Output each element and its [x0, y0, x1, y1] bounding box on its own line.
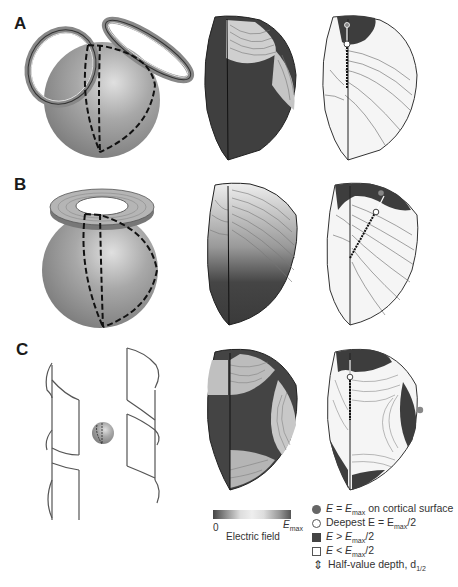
legend-item-half-value-depth: ⇕ Half-value depth, d1/2 — [312, 558, 453, 572]
legend-item-above-half: E > Emax/2 — [312, 530, 453, 544]
panel-b-field-map — [207, 183, 297, 325]
head-sphere-small — [92, 422, 114, 444]
panel-c-threshold-map — [327, 349, 423, 490]
panel-b-coil-model — [42, 189, 158, 328]
max-surface-marker — [417, 407, 423, 413]
circular-coil — [50, 189, 154, 230]
panel-a-threshold-map — [323, 15, 417, 160]
legend-text: E < Emax/2 — [326, 544, 374, 558]
electric-field-colorbar — [213, 510, 291, 519]
colorbar-max-symbol: E — [283, 519, 290, 530]
colorbar-max-label: Emax — [283, 519, 303, 532]
legend-text: Deepest E = Emax/2 — [326, 516, 416, 530]
open-circle-icon — [312, 519, 321, 528]
legend-item-below-half: E < Emax/2 — [312, 544, 453, 558]
h-coil-left — [46, 363, 79, 520]
panel-c-coil-model — [46, 348, 159, 520]
figure-canvas — [0, 0, 458, 587]
legend-text: E = Emax on cortical surface — [326, 502, 453, 516]
double-arrow-icon: ⇕ — [312, 560, 323, 571]
open-square-icon — [312, 547, 321, 556]
legend-item-deepest-half: Deepest E = Emax/2 — [312, 516, 453, 530]
filled-circle-icon — [312, 505, 321, 514]
filled-square-icon — [312, 533, 321, 542]
max-surface-marker — [345, 23, 350, 28]
deepest-half-marker — [344, 41, 350, 47]
panel-a-field-map — [205, 16, 296, 160]
max-surface-marker — [378, 190, 384, 196]
legend-item-max-surface: E = Emax on cortical surface — [312, 502, 453, 516]
h-coil-right — [127, 348, 159, 503]
colorbar-min-label: 0 — [213, 522, 219, 533]
deepest-half-marker — [347, 374, 353, 380]
legend-text: Half-value depth, d1/2 — [328, 558, 426, 572]
colorbar-max-sub: max — [290, 525, 303, 532]
panel-c-field-map — [207, 349, 297, 490]
legend-text: E > Emax/2 — [326, 530, 374, 544]
legend: E = Emax on cortical surface Deepest E =… — [312, 502, 453, 572]
colorbar-title: Electric field — [226, 531, 280, 542]
panel-a-coil-model — [16, 11, 198, 158]
panel-b-threshold-map — [327, 183, 418, 325]
deepest-half-marker — [373, 209, 379, 215]
